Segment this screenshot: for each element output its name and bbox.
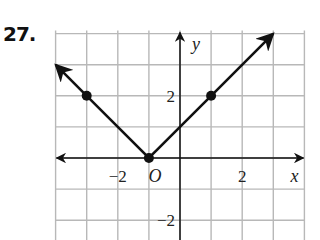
x-axis-label: x (289, 166, 298, 186)
x-tick-label: −2 (109, 167, 127, 186)
y-axis-label: y (190, 34, 200, 54)
y-tick-label: 2 (167, 87, 176, 106)
y-tick-label: −2 (157, 211, 175, 230)
x-tick-label: 2 (238, 167, 247, 186)
coordinate-plane: −222−2Oxy (0, 0, 320, 240)
data-point (82, 91, 92, 101)
data-point (206, 91, 216, 101)
data-point (144, 153, 154, 163)
origin-label: O (149, 166, 162, 186)
